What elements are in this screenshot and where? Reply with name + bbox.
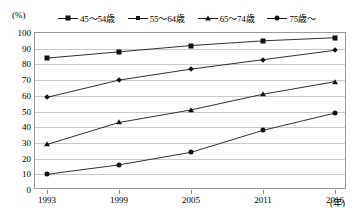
series-line-2 xyxy=(47,50,335,97)
x-axis-tick xyxy=(47,190,48,194)
legend-item-label: 55～64歳 xyxy=(150,12,185,25)
y-axis-tick-label: 10 xyxy=(22,169,31,179)
y-axis-tick-label: 100 xyxy=(18,28,32,38)
data-point xyxy=(189,150,194,155)
circle-marker-icon xyxy=(267,14,287,23)
data-point xyxy=(333,35,338,40)
legend-item-label: 65～74歳 xyxy=(220,12,255,25)
x-axis-tick-label: 1999 xyxy=(110,195,128,205)
legend-item-4[interactable]: 75歳～ xyxy=(267,12,315,25)
marker-glyph xyxy=(136,16,140,20)
data-point xyxy=(332,79,338,84)
x-axis-tick-label: 2016 xyxy=(326,195,344,205)
series-line-4 xyxy=(47,113,335,174)
y-axis-tick-label: 80 xyxy=(22,59,31,69)
marker-glyph xyxy=(275,16,280,21)
y-axis-unit-label: (%) xyxy=(12,10,26,20)
data-point xyxy=(117,49,122,54)
data-point xyxy=(260,91,266,96)
square-marker-icon xyxy=(58,14,78,23)
y-axis-tick-label: 30 xyxy=(22,138,31,148)
legend-item-2[interactable]: 55～64歳 xyxy=(128,12,185,25)
x-axis-tick-label: 1993 xyxy=(38,195,56,205)
chart-legend: 45～54歳55～64歳65～74歳75歳～ xyxy=(58,11,316,25)
x-axis-tick xyxy=(263,190,264,194)
data-point xyxy=(45,56,50,61)
x-axis-tick xyxy=(335,190,336,194)
data-point xyxy=(261,38,266,43)
marker-glyph xyxy=(66,16,71,21)
y-axis-tick-label: 0 xyxy=(27,185,32,195)
data-point xyxy=(188,107,194,112)
diamond-marker-icon xyxy=(128,14,148,23)
x-axis-tick xyxy=(119,190,120,194)
y-axis-tick-label: 50 xyxy=(22,107,31,117)
data-point xyxy=(45,172,50,177)
data-point xyxy=(117,162,122,167)
data-point xyxy=(333,111,338,116)
marker-glyph xyxy=(205,16,211,21)
y-axis-tick-label: 40 xyxy=(22,122,31,132)
y-axis-tick-label: 70 xyxy=(22,75,31,85)
data-point xyxy=(261,128,266,133)
data-point xyxy=(116,120,122,125)
y-axis-tick-label: 60 xyxy=(22,91,31,101)
y-axis-tick-label: 90 xyxy=(22,44,31,54)
x-axis-tick-label: 2005 xyxy=(182,195,200,205)
legend-item-1[interactable]: 45～54歳 xyxy=(58,12,115,25)
x-axis-tick xyxy=(191,190,192,194)
legend-item-label: 45～54歳 xyxy=(80,12,115,25)
data-point xyxy=(44,142,50,147)
legend-item-label: 75歳～ xyxy=(289,12,315,25)
data-point xyxy=(189,43,194,48)
y-axis-tick-label: 20 xyxy=(22,154,31,164)
legend-item-3[interactable]: 65～74歳 xyxy=(198,12,255,25)
line-chart: (%) (年) 45～54歳55～64歳65～74歳75歳～ 010203040… xyxy=(0,0,361,223)
x-axis-tick-label: 2011 xyxy=(254,195,272,205)
triangle-marker-icon xyxy=(198,14,218,23)
series-line-3 xyxy=(47,82,335,145)
plot-area: 0102030405060708090100 19931999200520112… xyxy=(34,32,346,189)
